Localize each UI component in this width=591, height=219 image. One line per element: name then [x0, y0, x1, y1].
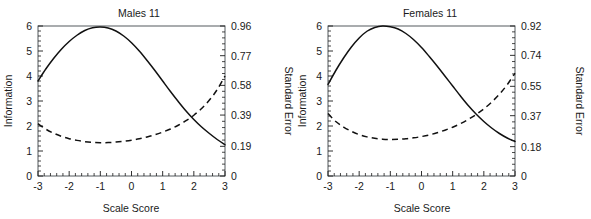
y-left-tick-label: 2 [316, 120, 322, 132]
plot-frame [38, 26, 225, 176]
y-left-tick-label: 1 [26, 145, 32, 157]
y-left-tick-label: 0 [316, 170, 322, 182]
y-axis-label-right: Standard Error [574, 67, 586, 136]
information-curve [38, 27, 225, 145]
y-right-tick-label: 0.19 [231, 140, 252, 152]
y-left-tick-label: 4 [316, 70, 322, 82]
x-tick-label: -3 [323, 180, 332, 192]
y-right-tick-label: 0 [521, 170, 527, 182]
x-tick-label: 1 [160, 180, 166, 192]
axes-males: -3-2-10123012345600.190.390.580.770.96 [26, 20, 251, 192]
y-axis-label-left: Information [2, 75, 14, 128]
information-curves-figure: Males 11 -3-2-10123012345600.190.390.580… [0, 0, 591, 219]
y-left-tick-label: 1 [316, 145, 322, 157]
x-tick-label: 3 [222, 180, 228, 192]
y-left-tick-label: 3 [316, 95, 322, 107]
chart-panel-females: Females 11 -3-2-10123012345600.180.370.5… [295, 0, 591, 219]
curves-females [328, 26, 515, 142]
standard-error-curve [328, 73, 515, 139]
axes-females: -3-2-10123012345600.180.370.550.740.92 [316, 20, 541, 192]
x-axis-label: Scale Score [394, 202, 451, 214]
chart-panel-males: Males 11 -3-2-10123012345600.190.390.580… [0, 0, 296, 219]
curves-males [38, 27, 225, 145]
y-left-tick-label: 3 [26, 95, 32, 107]
y-right-tick-label: 0.92 [521, 20, 542, 32]
y-right-tick-label: 0 [231, 170, 237, 182]
y-left-tick-label: 2 [26, 120, 32, 132]
x-tick-label: 3 [512, 180, 518, 192]
x-tick-label: 1 [450, 180, 456, 192]
y-left-tick-label: 6 [26, 20, 32, 32]
x-axis-label: Scale Score [103, 202, 160, 214]
y-right-tick-label: 0.37 [521, 110, 542, 122]
females-chart-svg: Females 11 -3-2-10123012345600.180.370.5… [295, 0, 591, 219]
y-right-tick-label: 0.77 [231, 50, 252, 62]
y-axis-label-right: Standard Error [283, 67, 295, 136]
x-tick-label: 0 [129, 180, 135, 192]
y-left-tick-label: 5 [316, 45, 322, 57]
y-left-tick-label: 4 [26, 70, 32, 82]
x-tick-label: 2 [481, 180, 487, 192]
y-left-tick-label: 0 [26, 170, 32, 182]
y-right-tick-label: 0.39 [231, 109, 252, 121]
y-right-tick-label: 0.58 [231, 79, 252, 91]
y-axis-label-left: Information [296, 75, 308, 128]
y-left-tick-label: 5 [26, 45, 32, 57]
x-tick-label: 0 [419, 180, 425, 192]
y-right-tick-label: 0.96 [231, 20, 252, 32]
x-tick-label: -1 [386, 180, 395, 192]
panel-title: Females 11 [403, 7, 457, 19]
x-tick-label: -3 [33, 180, 42, 192]
x-tick-label: -1 [96, 180, 105, 192]
x-tick-label: -2 [64, 180, 73, 192]
x-tick-label: -2 [354, 180, 363, 192]
x-tick-label: 2 [191, 180, 197, 192]
males-chart-svg: Males 11 -3-2-10123012345600.190.390.580… [0, 0, 296, 219]
y-right-tick-label: 0.74 [521, 49, 542, 61]
y-left-tick-label: 6 [316, 20, 322, 32]
y-right-tick-label: 0.55 [521, 80, 542, 92]
information-curve [328, 26, 515, 142]
standard-error-curve [38, 76, 225, 143]
y-right-tick-label: 0.18 [521, 141, 542, 153]
panel-title: Males 11 [118, 7, 160, 19]
